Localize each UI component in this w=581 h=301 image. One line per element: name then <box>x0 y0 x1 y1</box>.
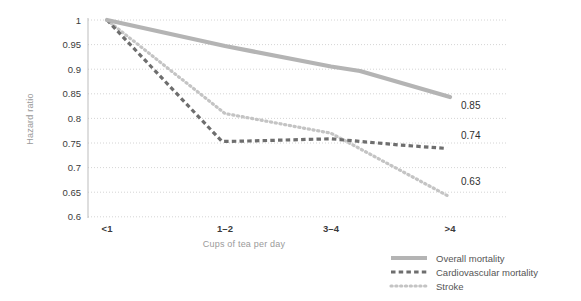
legend-label: Overall mortality <box>436 253 505 264</box>
y-tick-label: 0.9 <box>68 64 81 75</box>
y-tick-label: 0.7 <box>68 162 81 173</box>
y-tick-label: 0.95 <box>63 39 82 50</box>
y-tick-label: 0.65 <box>63 187 82 198</box>
legend-label: Cardiovascular mortality <box>436 267 538 278</box>
value-label-stroke: 0.63 <box>461 176 481 187</box>
y-axis-title: Hazard ratio <box>25 93 35 144</box>
x-tick-label: >4 <box>445 223 457 234</box>
y-tick-label: 0.85 <box>63 88 82 99</box>
y-tick-label: 0.8 <box>68 113 81 124</box>
y-tick-label: 0.75 <box>63 138 82 149</box>
x-tick-label: 1–2 <box>217 223 233 234</box>
hazard-ratio-line-chart: 1 0.95 0.9 0.85 0.8 0.75 0.7 0.65 0.6 Ha… <box>0 0 581 301</box>
value-label-cardiovascular: 0.74 <box>461 130 481 141</box>
y-tick-label: 0.6 <box>68 211 81 222</box>
x-axis-title: Cups of tea per day <box>203 239 286 249</box>
value-label-overall: 0.85 <box>461 100 481 111</box>
x-tick-label: 3–4 <box>323 223 340 234</box>
y-tick-label: 1 <box>76 15 81 26</box>
x-tick-label: <1 <box>102 223 114 234</box>
legend-label: Stroke <box>436 281 463 292</box>
